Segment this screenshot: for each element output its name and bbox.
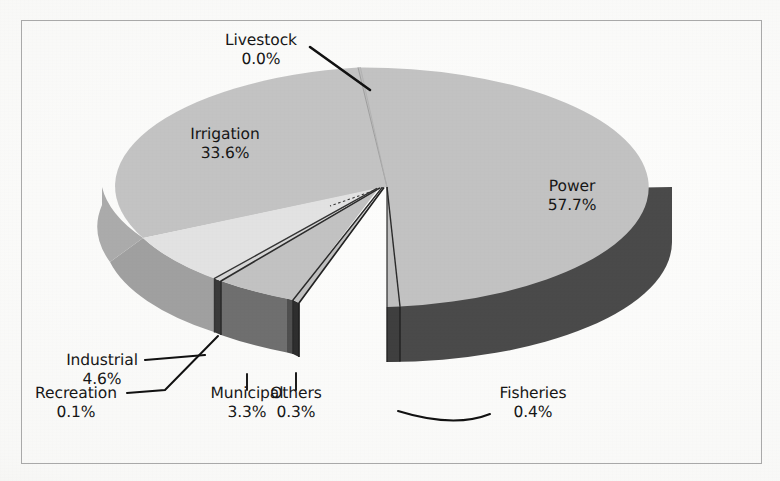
slice-label-recreation-percent: 0.1% — [26, 403, 126, 422]
slice-label-fisheries-name: Fisheries — [487, 384, 579, 403]
slice-label-others-name: Others — [262, 384, 330, 403]
slice-label-industrial: Industrial 4.6% — [57, 351, 147, 388]
slice-label-industrial-name: Industrial — [57, 351, 147, 370]
slice-label-others-percent: 0.3% — [262, 403, 330, 422]
slice-label-fisheries-percent: 0.4% — [487, 403, 579, 422]
chart-page: Livestock 0.0% Irrigation 33.6% Power 57… — [0, 0, 780, 481]
slice-label-power: Power 57.7% — [524, 177, 620, 214]
slice-label-recreation: Recreation 0.1% — [26, 384, 126, 421]
slice-label-irrigation-percent: 33.6% — [170, 144, 280, 163]
slice-label-irrigation: Irrigation 33.6% — [170, 125, 280, 162]
slice-label-recreation-name: Recreation — [26, 384, 126, 403]
slice-label-livestock-percent: 0.0% — [206, 50, 316, 69]
slice-label-irrigation-name: Irrigation — [170, 125, 280, 144]
slice-label-livestock: Livestock 0.0% — [206, 31, 316, 68]
chart-border-frame — [21, 20, 762, 464]
slice-label-power-name: Power — [524, 177, 620, 196]
slice-label-others: Others 0.3% — [262, 384, 330, 421]
slice-label-power-percent: 57.7% — [524, 196, 620, 215]
slice-label-livestock-name: Livestock — [206, 31, 316, 50]
slice-label-fisheries: Fisheries 0.4% — [487, 384, 579, 421]
